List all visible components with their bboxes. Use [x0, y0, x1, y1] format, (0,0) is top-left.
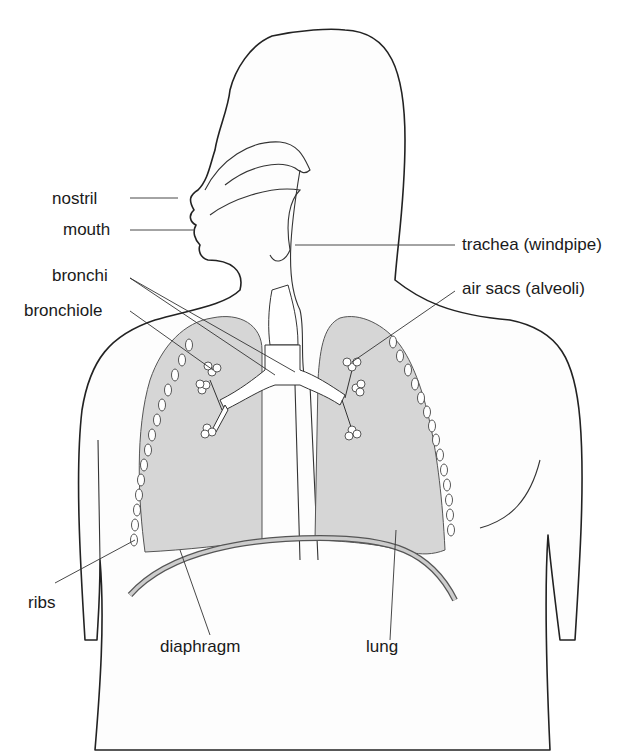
label-ribs: ribs: [28, 594, 55, 611]
label-bronchiole: bronchiole: [24, 302, 102, 319]
label-mouth: mouth: [63, 221, 110, 238]
label-diaphragm: diaphragm: [160, 638, 240, 655]
label-trachea: trachea (windpipe): [462, 236, 602, 253]
label-nostril: nostril: [52, 190, 97, 207]
label-air-sacs: air sacs (alveoli): [462, 280, 585, 297]
label-bronchi: bronchi: [52, 267, 108, 284]
label-lung: lung: [366, 638, 398, 655]
respiratory-diagram: [0, 0, 636, 754]
